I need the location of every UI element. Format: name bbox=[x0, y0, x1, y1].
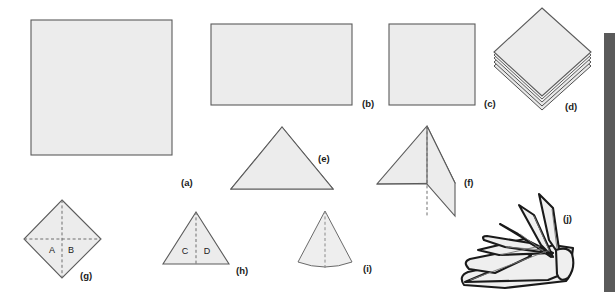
panel-label-d: (d) bbox=[565, 101, 577, 112]
wide-rectangle-shape bbox=[211, 24, 352, 105]
flap-lower-wedge bbox=[427, 126, 455, 216]
origami-diagram-canvas: A B C D bbox=[0, 0, 615, 292]
panel-h-triangle: C D bbox=[163, 212, 229, 264]
panel-c-small-square bbox=[389, 24, 475, 105]
region-label-c: C bbox=[182, 246, 189, 256]
panel-label-b: (b) bbox=[362, 98, 374, 109]
panel-label-i: (i) bbox=[363, 263, 372, 274]
right-side-band bbox=[604, 33, 615, 292]
panel-label-f: (f) bbox=[464, 177, 474, 188]
origami-figure: A B C D bbox=[0, 0, 615, 292]
panel-label-h: (h) bbox=[236, 265, 248, 276]
panel-label-a: (a) bbox=[181, 177, 193, 188]
small-square-shape bbox=[389, 24, 475, 105]
panel-label-c: (c) bbox=[484, 98, 496, 109]
panel-i-cone bbox=[298, 211, 352, 268]
panel-label-e: (e) bbox=[318, 153, 330, 164]
square-sheet-shape bbox=[31, 20, 172, 155]
panel-j-origami-crane bbox=[462, 194, 574, 288]
diamond-top-sheet bbox=[494, 8, 591, 96]
panel-label-j: (j) bbox=[563, 213, 572, 224]
region-label-d: D bbox=[204, 246, 211, 256]
panel-a-square-sheet bbox=[31, 20, 172, 155]
panel-b-wide-rectangle bbox=[211, 24, 352, 105]
panel-label-g: (g) bbox=[80, 270, 92, 281]
panel-f-triangle-with-flap bbox=[377, 126, 455, 216]
panel-d-layered-diamond bbox=[494, 8, 591, 110]
panel-g-kite: A B bbox=[24, 200, 101, 278]
region-label-b: B bbox=[68, 245, 74, 255]
region-label-a: A bbox=[49, 245, 55, 255]
crane-head bbox=[556, 249, 573, 280]
